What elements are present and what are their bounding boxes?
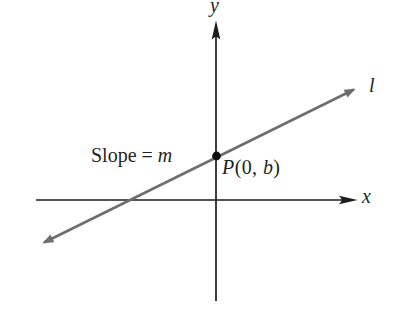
- y-intercept-point: [212, 152, 221, 161]
- point-coords-close: ): [273, 156, 280, 178]
- point-intercept-variable: b: [263, 156, 273, 178]
- slope-variable: m: [158, 144, 172, 166]
- y-axis-label: y: [210, 0, 219, 15]
- slope-label: Slope = m: [91, 145, 172, 165]
- line-l: [44, 90, 354, 243]
- figure-canvas: y x l Slope = m P(0, b): [0, 0, 402, 320]
- point-label: P(0, b): [222, 157, 280, 177]
- point-coords-open: (0,: [235, 156, 263, 178]
- point-name: P: [222, 156, 235, 178]
- line-label: l: [369, 75, 375, 95]
- x-axis-label: x: [362, 186, 371, 206]
- slope-label-text: Slope =: [91, 144, 158, 166]
- coordinate-plane: [0, 0, 402, 320]
